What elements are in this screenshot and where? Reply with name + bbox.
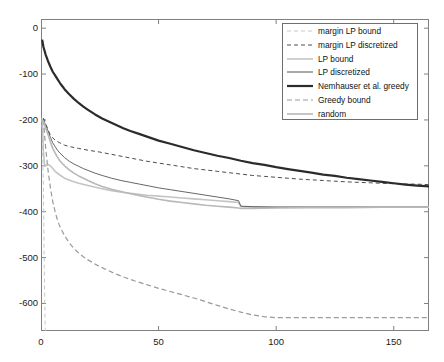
legend-item-label: random xyxy=(318,109,346,119)
legend-line-swatch xyxy=(287,26,313,36)
x-tick-label: 50 xyxy=(139,336,179,347)
x-tick-label: 100 xyxy=(256,336,296,347)
y-tick-label: -400 xyxy=(19,206,38,217)
legend-item-6[interactable]: random xyxy=(283,107,417,121)
legend[interactable]: margin LP boundmargin LP discretizedLP b… xyxy=(282,23,418,120)
legend-line-swatch xyxy=(287,40,313,50)
legend-item-label: Nemhauser et al. greedy xyxy=(318,81,409,91)
y-tick-label: -300 xyxy=(19,160,38,171)
legend-item-label: margin LP discretized xyxy=(318,40,398,50)
x-tick-label: 0 xyxy=(21,336,61,347)
y-tick-label: -600 xyxy=(19,297,38,308)
series-line-3 xyxy=(43,119,429,207)
series-line-6 xyxy=(43,121,429,209)
legend-line-swatch xyxy=(287,95,313,105)
legend-item-3[interactable]: LP discretized xyxy=(283,66,417,80)
chart-figure: 0-100-200-300-400-500-600 050100150 marg… xyxy=(0,0,444,362)
legend-line-swatch xyxy=(287,67,313,77)
legend-item-label: LP bound xyxy=(318,54,353,64)
y-tick-label: 0 xyxy=(33,22,38,33)
series-line-5 xyxy=(43,120,429,318)
legend-item-0[interactable]: margin LP bound xyxy=(283,24,417,38)
legend-item-1[interactable]: margin LP discretized xyxy=(283,38,417,52)
legend-item-label: LP discretized xyxy=(318,67,370,77)
series-line-1 xyxy=(43,118,429,185)
y-tick-label: -100 xyxy=(19,68,38,79)
x-tick-label: 150 xyxy=(374,336,414,347)
legend-line-swatch xyxy=(287,109,313,119)
legend-item-label: Greedy bound xyxy=(318,95,371,105)
legend-item-label: margin LP bound xyxy=(318,26,381,36)
legend-item-2[interactable]: LP bound xyxy=(283,52,417,66)
series-line-2 xyxy=(42,120,429,207)
legend-line-swatch xyxy=(287,54,313,64)
y-tick-label: -500 xyxy=(19,252,38,263)
legend-item-4[interactable]: Nemhauser et al. greedy xyxy=(283,79,417,93)
legend-item-5[interactable]: Greedy bound xyxy=(283,93,417,107)
y-tick-label: -200 xyxy=(19,114,38,125)
legend-line-swatch xyxy=(287,81,313,91)
